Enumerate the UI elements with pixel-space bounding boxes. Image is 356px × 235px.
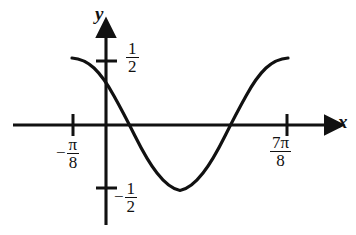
fraction-numerator: 7π [270, 134, 291, 152]
fraction-denominator: 2 [126, 58, 139, 75]
fraction-denominator: 8 [274, 152, 287, 169]
y-tick-label-neg-one-half: − 1 2 [114, 180, 137, 216]
y-tick-label-one-half: 1 2 [126, 40, 139, 76]
x-tick-label-7pi-over-8: 7π 8 [270, 134, 291, 170]
fraction-numerator: 1 [126, 40, 139, 58]
plot-canvas [0, 0, 356, 235]
fraction-numerator: π [67, 136, 80, 154]
fraction-denominator: 8 [67, 154, 80, 171]
graph-figure: y x 1 2 − 1 2 − π 8 7π 8 [0, 0, 356, 235]
x-axis-label: x [338, 112, 348, 131]
fraction: 1 2 [125, 180, 138, 216]
minus-sign-glyph: − [114, 187, 124, 208]
y-axis-label: y [95, 4, 103, 23]
fraction-denominator: 2 [125, 198, 138, 215]
minus-sign-glyph: − [56, 143, 66, 164]
fraction-numerator: 1 [125, 180, 138, 198]
x-tick-label-neg-pi-over-8: − π 8 [56, 136, 79, 172]
fraction: π 8 [67, 136, 80, 172]
